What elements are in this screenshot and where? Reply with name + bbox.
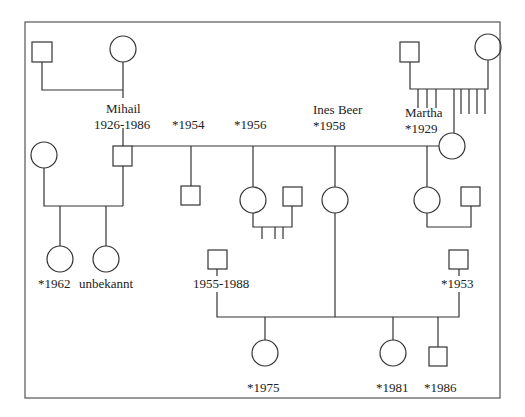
ines-birth-label: *1958 <box>313 118 346 133</box>
child-1981-label: *1981 <box>376 380 409 395</box>
ines-name-label: Ines Beer <box>313 102 362 117</box>
child-1956-label: *1956 <box>234 117 267 132</box>
child-1975-label: *1975 <box>247 380 280 395</box>
partner-1955-1988-line <box>217 269 459 317</box>
pedigree-diagram <box>0 0 525 417</box>
daughter-1962-circle <box>47 246 73 272</box>
ines-beer-circle <box>322 187 348 213</box>
son-1954-square <box>181 186 200 205</box>
daughter-1956-circle <box>240 187 266 213</box>
child-1975-circle <box>252 340 278 366</box>
mihail-mother-circle <box>110 36 136 62</box>
mihail-father-square <box>32 42 52 62</box>
martha-daughter-circle <box>414 187 440 213</box>
daughter-unknown-label: unbekannt <box>79 276 133 291</box>
partner-1953-label: *1953 <box>441 276 474 291</box>
mihail-dates-label: 1926-1986 <box>94 117 150 132</box>
mihail-name-label: Mihail <box>106 101 141 116</box>
mihail-square <box>113 146 132 166</box>
daughter-1962-label: *1962 <box>38 276 71 291</box>
martha-father-square <box>400 42 419 62</box>
first-marriage-line <box>44 166 123 206</box>
daughter-unknown-circle <box>93 246 119 272</box>
daughter-1956-marriage-line <box>253 206 292 227</box>
martha-circle <box>439 133 465 159</box>
partner-1955-1988-square <box>208 250 227 269</box>
first-wife-circle <box>31 142 57 168</box>
martha-parents-line <box>410 60 488 89</box>
diagram-frame <box>25 22 500 398</box>
mihail-parents-line <box>42 62 123 98</box>
child-1986-label: *1986 <box>424 380 457 395</box>
partner-1956-square <box>283 187 302 206</box>
partner-1953-square <box>449 250 468 269</box>
martha-name-label: Martha <box>405 105 443 120</box>
daughter-1956-offspring-lines <box>262 227 283 239</box>
partner-1955-1988-label: 1955-1988 <box>193 276 249 291</box>
child-1954-label: *1954 <box>172 117 205 132</box>
martha-daughter-partner-square <box>461 187 480 206</box>
martha-daughter-marriage-line <box>427 206 471 227</box>
daughters-drop-lines <box>60 206 106 246</box>
child-1981-circle <box>380 340 406 366</box>
martha-mother-circle <box>475 34 501 60</box>
martha-birth-label: *1929 <box>405 121 438 136</box>
child-1986-square <box>429 347 447 366</box>
